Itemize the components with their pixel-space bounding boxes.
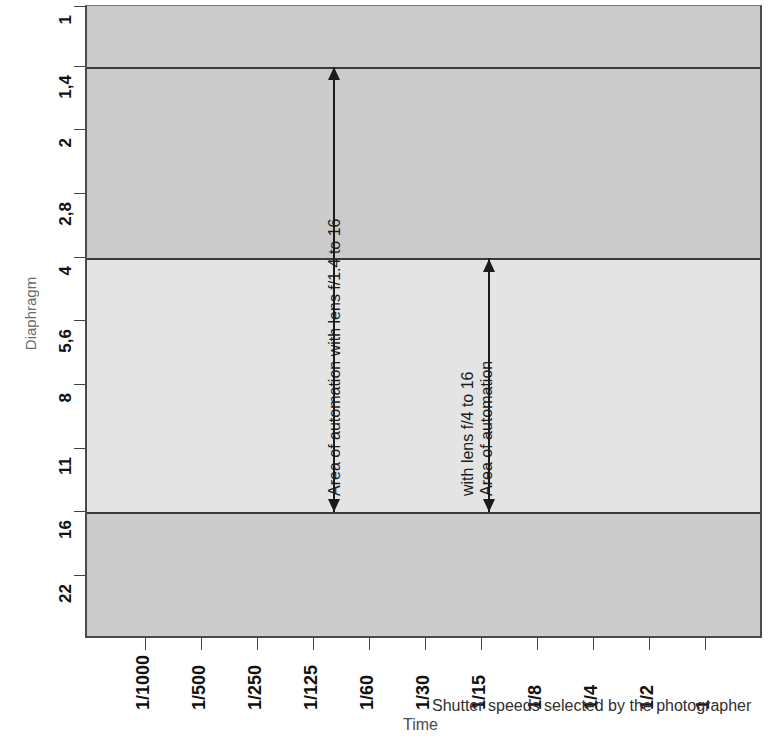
y-tick-8 [74, 511, 85, 512]
y-tick-9 [74, 575, 85, 576]
y-tick-1 [74, 66, 85, 67]
y-axis-title: Diaphragm [22, 264, 39, 364]
band-middle-light [87, 258, 760, 512]
y-tick-7 [74, 448, 85, 449]
y-tick-label-1: 1,4 [56, 75, 76, 99]
x-tick-label-5: 1/30 [414, 675, 432, 710]
y-tick-2 [74, 129, 85, 130]
x-axis-title-main: Shutter speeds selected by the photograp… [432, 697, 751, 715]
annotation-arrow-2-head-top [483, 259, 495, 272]
x-tick-1 [201, 638, 202, 650]
y-tick-label-0: 1 [56, 15, 76, 24]
x-tick-4 [369, 638, 370, 650]
band-upper-dark [87, 6, 760, 258]
annotation-arrow-1-head-top [328, 67, 340, 80]
y-tick-label-3: 2,8 [56, 202, 76, 226]
y-tick-6 [74, 384, 85, 385]
boundary-line-f4 [87, 258, 760, 260]
x-tick-9 [649, 638, 650, 650]
x-tick-label-2: 1/250 [246, 665, 264, 710]
y-tick-label-5: 5,6 [56, 329, 76, 353]
x-tick-8 [593, 638, 594, 650]
y-tick-label-6: 8 [56, 393, 76, 402]
x-tick-label-0: 1/1000 [134, 655, 152, 710]
x-tick-label-3: 1/125 [302, 665, 320, 710]
y-tick-label-2: 2 [56, 138, 76, 147]
y-tick-label-8: 16 [56, 520, 76, 539]
x-tick-7 [537, 638, 538, 650]
x-tick-label-4: 1/60 [358, 675, 376, 710]
boundary-line-f1-4 [87, 67, 760, 69]
chart-figure: Area of automation with lens f/1.4 to 16… [0, 0, 777, 749]
x-tick-2 [257, 638, 258, 650]
y-tick-3 [74, 193, 85, 194]
y-tick-4 [74, 257, 85, 258]
x-tick-label-1: 1/500 [190, 665, 208, 710]
band-lower-dark [87, 512, 760, 638]
x-tick-6 [481, 638, 482, 650]
x-tick-5 [425, 638, 426, 650]
y-tick-label-9: 22 [56, 584, 76, 603]
annotation-label-2-line2: with lens f/4 to 16 [458, 371, 478, 496]
boundary-line-f16 [87, 512, 760, 514]
annotation-label-2-line1: Area of automation [477, 361, 497, 496]
annotation-arrow-2-head-bottom [483, 499, 495, 512]
annotation-arrow-1-head-bottom [328, 499, 340, 512]
x-axis-title-time: Time [403, 716, 438, 734]
x-tick-0 [145, 638, 146, 650]
y-tick-5 [74, 320, 85, 321]
annotation-label-1: Area of automation with lens f/1.4 to 16 [325, 219, 345, 497]
y-tick-label-7: 11 [56, 457, 76, 475]
y-tick-label-4: 4 [56, 266, 76, 275]
plot-area: Area of automation with lens f/1.4 to 16… [85, 5, 762, 638]
x-tick-3 [313, 638, 314, 650]
y-tick-0 [74, 6, 85, 7]
x-tick-10 [705, 638, 706, 650]
